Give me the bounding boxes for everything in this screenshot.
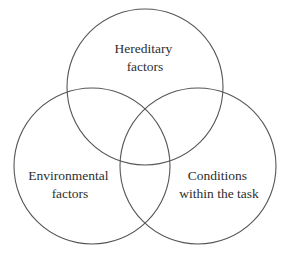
- environmental-factors-label: Environmental factors: [28, 168, 112, 201]
- conditions-within-task-label: Conditions within the task: [179, 168, 259, 201]
- environmental-label-line-2: factors: [52, 186, 89, 201]
- hereditary-factors-circle: [67, 9, 223, 165]
- environmental-factors-circle: [14, 88, 170, 244]
- hereditary-label-line-2: factors: [127, 59, 164, 74]
- conditions-label-line-1: Conditions: [188, 168, 247, 183]
- environmental-label-line-1: Environmental: [28, 168, 108, 183]
- hereditary-label-line-1: Hereditary: [114, 41, 172, 56]
- conditions-within-task-circle: [120, 88, 276, 244]
- conditions-label-line-2: within the task: [179, 186, 259, 201]
- venn-diagram: Hereditary factors Environmental factors…: [0, 0, 288, 256]
- hereditary-factors-label: Hereditary factors: [114, 41, 175, 74]
